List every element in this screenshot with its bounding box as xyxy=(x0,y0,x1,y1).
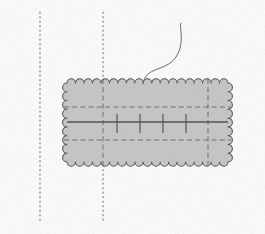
paper-grain-overlay xyxy=(0,0,265,234)
schematic-drawing xyxy=(0,0,265,234)
figure-canvas xyxy=(0,0,265,234)
